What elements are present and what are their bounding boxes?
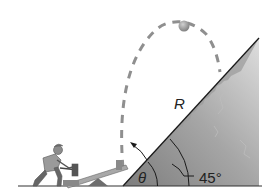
hill-slope (123, 38, 259, 186)
theta-arrow-arc (133, 145, 147, 160)
projectile-ball (179, 21, 190, 32)
range-label: R (174, 95, 185, 112)
slope-angle-label: 45° (199, 169, 222, 186)
projectile-slope-diagram (0, 0, 269, 192)
theta-label: θ (138, 169, 146, 186)
person-with-hammer (33, 144, 78, 186)
